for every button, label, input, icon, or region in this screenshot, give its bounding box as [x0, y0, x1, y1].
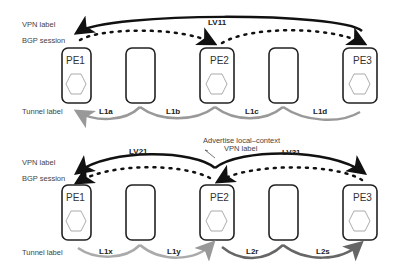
svg-text:PE2: PE2: [210, 192, 229, 203]
vpn-label-diagram: VPN label BGP session Tunnel label LV11 …: [0, 0, 397, 275]
tunnel-label-value: L1b: [166, 107, 180, 116]
node-pe3: PE3: [343, 48, 377, 103]
node-pe2: PE2: [200, 185, 234, 240]
tunnel-label-value: L1d: [313, 107, 327, 116]
annotation-pointer: [205, 150, 215, 158]
annotation-text: VPN label: [224, 144, 258, 153]
node-pe2: PE2: [200, 48, 234, 103]
node-pe3: PE3: [343, 185, 377, 240]
bgp-session-caption: BGP session: [22, 174, 65, 183]
tunnel-label-value: L1a: [99, 107, 113, 116]
tunnel-label-value: L1y: [167, 247, 181, 256]
vpn-label-caption: VPN label: [22, 158, 56, 167]
bgp-session-arrow: [78, 167, 210, 182]
svg-text:PE1: PE1: [66, 55, 85, 66]
tunnel-label-value: L1c: [245, 107, 259, 116]
vpn-label-value: LV11: [208, 18, 227, 27]
tunnel-label-value: L2r: [246, 247, 258, 256]
tunnel-label-value: L2s: [316, 247, 330, 256]
node-p-router: [126, 48, 155, 103]
tunnel-label-caption: Tunnel label: [22, 248, 63, 257]
vpn-label-caption: VPN label: [22, 20, 56, 29]
bgp-session-arrow: [80, 31, 213, 43]
svg-text:PE3: PE3: [353, 192, 372, 203]
top-diagram: VPN label BGP session Tunnel label LV11 …: [22, 17, 377, 120]
bottom-diagram: VPN label BGP session Tunnel label Adver…: [22, 136, 377, 258]
bgp-session-arrow: [219, 167, 362, 181]
vpn-label-value: LV21: [129, 147, 148, 156]
bgp-session-caption: BGP session: [22, 36, 65, 45]
bgp-session-arrow: [222, 30, 363, 43]
svg-text:PE3: PE3: [353, 55, 372, 66]
node-p-router: [269, 185, 298, 240]
node-p-router: [126, 185, 155, 240]
node-p-router: [269, 48, 298, 103]
svg-text:PE2: PE2: [210, 55, 229, 66]
node-pe1: PE1: [62, 185, 91, 240]
svg-text:PE1: PE1: [66, 192, 85, 203]
vpn-label-arrow: [78, 154, 215, 172]
vpn-label-value: LV31: [282, 148, 301, 157]
node-pe1: PE1: [62, 48, 91, 103]
tunnel-label-value: L1x: [99, 247, 113, 256]
tunnel-label-caption: Tunnel label: [22, 107, 63, 116]
